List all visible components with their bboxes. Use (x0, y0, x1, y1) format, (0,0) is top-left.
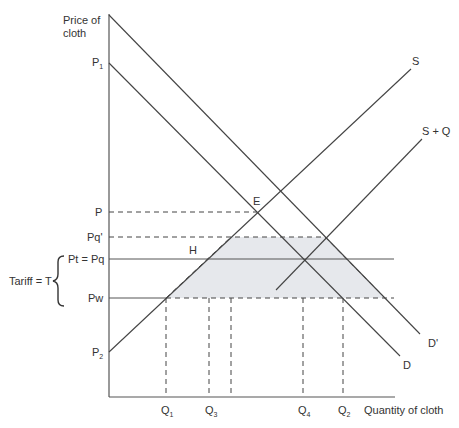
e-point-label: E (253, 195, 260, 207)
q4-label: Q4 (298, 404, 311, 418)
d-curve-label: D (403, 359, 411, 371)
q3-label: Q3 (205, 404, 218, 418)
quota-tariff-diagram: Price of cloth Quantity of cloth P1 P Pq… (0, 0, 459, 428)
q2-label: Q2 (338, 404, 351, 418)
s-plus-q-label: S + Q (422, 125, 451, 137)
d-prime-label: D' (428, 337, 438, 349)
tariff-label: Tariff = T (9, 275, 52, 287)
p-label: P (95, 206, 102, 218)
y-axis-label: Price of (63, 14, 101, 26)
h-point-label: H (189, 244, 197, 256)
tariff-brace (53, 256, 64, 306)
pw-label: Pw (88, 292, 103, 304)
y-axis-label-2: cloth (63, 27, 86, 39)
q1-label: Q1 (161, 404, 174, 418)
supply-curve (109, 69, 411, 352)
p1-label: P1 (92, 56, 103, 70)
demand-curve (109, 63, 400, 356)
pt-label: Pt = Pq (68, 253, 104, 265)
p2-label: P2 (92, 346, 103, 360)
x-axis-label: Quantity of cloth (364, 404, 444, 416)
pq-prime-label: Pq' (87, 231, 103, 243)
s-curve-label: S (412, 55, 419, 67)
